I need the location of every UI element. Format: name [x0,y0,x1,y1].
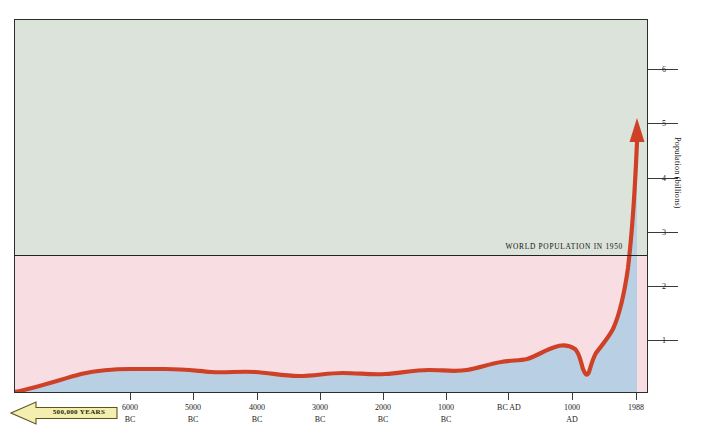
x-tick-mark [130,393,131,400]
curve-arrowhead-icon [630,118,645,142]
y-tick-label: 6 [662,65,666,74]
x-tick-mark [193,393,194,400]
x-tick-era: BC [249,414,265,426]
timespan-arrow-label: 500,000 YEARS [44,408,114,416]
y-tick-label: 1 [662,336,666,345]
plot-area: WORLD POPULATION IN 1950 [14,19,648,393]
x-tick-mark [383,393,384,400]
x-tick-mark [572,393,573,400]
x-tick-mark [446,393,447,400]
x-tick-mark [508,393,509,400]
x-tick-label: 4000 BC [249,402,265,425]
y-axis-title: Population (billions) [673,137,682,277]
x-tick-era: BC [122,414,138,426]
timespan-arrow: 500,000 YEARS [10,400,118,426]
x-tick-label: 1000 BC [438,402,454,425]
y-tick-label: 4 [662,174,666,183]
x-tick-mark [636,393,637,400]
x-tick-value: 2000 [375,403,391,412]
x-tick-era: BC [375,414,391,426]
y-axis: 1 2 3 4 5 6 Population (billions) [648,19,711,393]
y-tick-label: 3 [662,228,666,237]
x-tick-era: BC [438,414,454,426]
x-tick-value: 3000 [312,403,328,412]
x-tick-value: 6000 [122,403,138,412]
x-tick-value: 1000 [438,403,454,412]
x-tick-label: 1988 [628,402,644,414]
world-population-chart: WORLD POPULATION IN 1950 1 2 3 4 5 6 Pop… [0,0,711,448]
x-tick-label: 5000 BC [185,402,201,425]
x-tick-era: BC [185,414,201,426]
x-tick-label-bc-ad: BC AD [497,402,521,414]
y-tick-label: 5 [662,119,666,128]
x-tick-label: 3000 BC [312,402,328,425]
x-tick-value: 4000 [249,403,265,412]
x-tick-value: BC AD [497,403,521,412]
x-tick-mark [320,393,321,400]
x-tick-value: 5000 [185,403,201,412]
world-population-1950-reference-line [15,255,647,256]
world-population-1950-annotation: WORLD POPULATION IN 1950 [505,242,623,251]
x-tick-value: 1988 [628,403,644,412]
area-under-curve [15,140,637,393]
population-curve-svg [15,20,648,393]
x-tick-label: 6000 BC [122,402,138,425]
x-tick-label: 2000 BC [375,402,391,425]
x-tick-era: AD [564,414,580,426]
x-tick-value: 1000 [564,403,580,412]
x-tick-mark [257,393,258,400]
x-tick-era: BC [312,414,328,426]
y-tick-label: 2 [662,282,666,291]
x-tick-label: 1000 AD [564,402,580,425]
